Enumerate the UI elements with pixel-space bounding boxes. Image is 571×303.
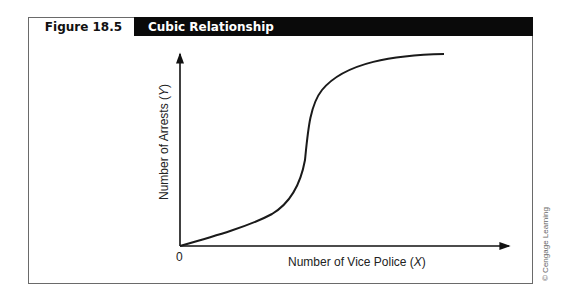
x-axis-label: Number of Vice Police (X) (288, 255, 426, 269)
cubic-curve (180, 54, 444, 246)
x-axis-label-text: Number of Vice Police ( (288, 255, 414, 269)
chart-plot: 0 Number of Vice Police (X) Number of Ar… (0, 0, 571, 303)
copyright-credit: © Cengage Learning (541, 207, 550, 281)
origin-label: 0 (176, 250, 183, 264)
y-axis-label-text: Number of Arrests ( (157, 96, 171, 200)
y-axis-label: Number of Arrests (Y) (157, 84, 171, 200)
x-axis-label-close: ) (422, 255, 426, 269)
y-axis-label-close: ) (157, 84, 171, 88)
